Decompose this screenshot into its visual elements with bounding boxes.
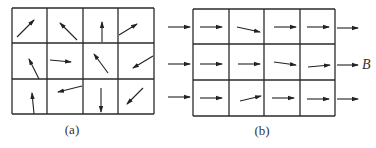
magnetization-arrow-icon [237, 27, 260, 32]
magnetic-domains-figure: (a) (b) B [0, 0, 376, 148]
magnetization-arrow-icon [240, 96, 261, 101]
panel-b-aligned-domains: (b) B [168, 9, 371, 138]
panel-a-label: (a) [65, 122, 79, 137]
magnetization-arrow-icon [60, 23, 77, 40]
magnetization-arrow-icon [94, 54, 108, 73]
magnetization-arrow-icon [58, 86, 82, 92]
magnetic-field-label: B [362, 57, 371, 72]
panel-a-random-domains: (a) [12, 8, 154, 137]
domain-arrows-a [17, 20, 153, 114]
magnetization-arrow-icon [17, 20, 34, 37]
magnetization-arrow-icon [127, 88, 143, 104]
magnetization-arrow-icon [119, 24, 137, 35]
grid-b [193, 9, 335, 116]
magnetization-arrow-icon [50, 60, 71, 62]
magnetization-arrow-icon [308, 65, 330, 67]
magnetization-arrow-icon [32, 93, 34, 114]
magnetization-arrow-icon [29, 59, 39, 79]
panel-b-label: (b) [254, 123, 269, 138]
magnetization-arrow-icon [133, 56, 153, 68]
magnetization-arrow-icon [274, 62, 296, 65]
domain-arrows-b [168, 27, 358, 101]
